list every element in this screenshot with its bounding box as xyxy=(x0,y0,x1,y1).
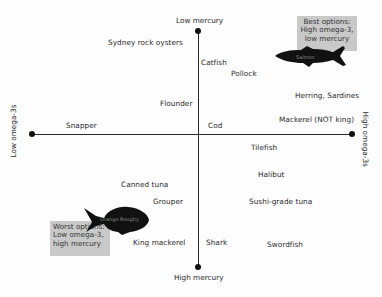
fish-label: Herring, Sardines xyxy=(295,91,359,100)
axis-end-dot-top xyxy=(195,28,201,34)
salmon-label: Salmon xyxy=(296,54,315,60)
fish-label: Mackerel (NOT king) xyxy=(279,115,354,124)
fish-label: Sydney rock oysters xyxy=(108,38,183,47)
orange-roughy-label: Orange Roughy xyxy=(100,216,139,222)
fish-label: Catfish xyxy=(201,58,227,67)
worst-options-line3: high mercury xyxy=(53,240,107,248)
axis-label-high-omega3: High omega-3s xyxy=(361,112,370,158)
fish-label: Sushi-grade tuna xyxy=(249,197,312,206)
fish-label: Canned tuna xyxy=(121,180,168,189)
fish-label: Halibut xyxy=(258,170,284,179)
fish-label: Pollock xyxy=(231,69,257,78)
fish-label: King mackerel xyxy=(133,238,185,247)
mercury-axis xyxy=(198,31,199,267)
fish-label: Snapper xyxy=(66,121,97,130)
fish-label: Shark xyxy=(206,238,227,247)
fish-label: Tilefish xyxy=(251,143,277,152)
axis-end-dot-left xyxy=(29,131,35,137)
fish-label: Grouper xyxy=(153,197,183,206)
best-options-line3: low mercury xyxy=(300,35,354,43)
axis-end-dot-right xyxy=(349,131,355,137)
fish-label: Swordfish xyxy=(267,240,303,249)
omega3-axis xyxy=(32,134,352,135)
fish-label: Cod xyxy=(208,121,222,130)
axis-label-low-mercury: Low mercury xyxy=(176,16,223,25)
fish-label: Flounder xyxy=(160,99,192,108)
axis-label-high-mercury: High mercury xyxy=(174,273,223,282)
axis-end-dot-bottom xyxy=(195,264,201,270)
axis-label-low-omega3: Low omega-3s xyxy=(9,112,18,158)
